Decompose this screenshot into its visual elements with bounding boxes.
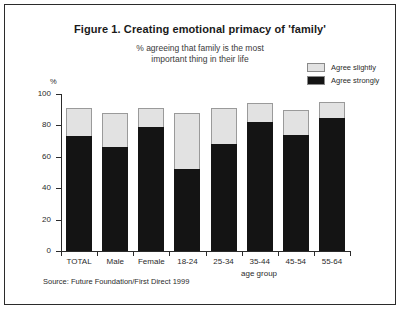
- bar-segment-agree-strongly: [283, 135, 309, 251]
- y-axis-tick-label: 20: [21, 215, 51, 224]
- y-axis-tick: [56, 220, 61, 221]
- x-axis-label-55-64: 55-64: [306, 257, 358, 266]
- chart-title: Figure 1. Creating emotional primacy of …: [5, 23, 395, 35]
- y-axis-tick: [56, 157, 61, 158]
- bar-25-34: [211, 108, 237, 251]
- x-axis-tick: [314, 252, 315, 256]
- bar-segment-agree-strongly: [138, 127, 164, 251]
- bar-total: [66, 108, 92, 251]
- x-axis-tick: [133, 252, 134, 256]
- bar-55-64: [319, 102, 345, 251]
- bar-male: [102, 113, 128, 251]
- bar-segment-agree-strongly: [319, 118, 345, 251]
- y-axis-tick-label: 80: [21, 120, 51, 129]
- legend-swatch-icon: [307, 63, 325, 72]
- figure-frame: Figure 1. Creating emotional primacy of …: [4, 4, 396, 305]
- y-axis-tick: [56, 94, 61, 95]
- bar-segment-agree-strongly: [66, 136, 92, 251]
- y-axis-tick: [56, 125, 61, 126]
- bar-segment-agree-strongly: [174, 169, 200, 251]
- x-axis-tick: [278, 252, 279, 256]
- bar-35-44: [247, 103, 273, 251]
- bar-segment-agree-strongly: [211, 144, 237, 251]
- plot-area: [61, 94, 350, 251]
- x-axis-tick: [61, 252, 62, 256]
- y-axis-tick-label: 100: [21, 89, 51, 98]
- y-axis-tick-label: 0: [21, 246, 51, 255]
- bar-female: [138, 108, 164, 251]
- legend-swatch-icon: [307, 76, 325, 85]
- x-axis-tick: [97, 252, 98, 256]
- bar-45-54: [283, 110, 309, 251]
- chart-legend: Agree slightlyAgree strongly: [307, 62, 397, 88]
- legend-item: Agree slightly: [307, 62, 397, 73]
- x-axis-title: age group: [241, 269, 277, 278]
- y-axis-tick-label: 60: [21, 152, 51, 161]
- source-note: Source: Future Foundation/First Direct 1…: [43, 277, 189, 286]
- x-axis-tick: [206, 252, 207, 256]
- bar-segment-agree-strongly: [102, 147, 128, 251]
- legend-label: Agree strongly: [331, 76, 379, 85]
- bar-segment-agree-strongly: [247, 122, 273, 251]
- legend-item: Agree strongly: [307, 75, 397, 86]
- chart-subtitle-line-1: % agreeing that family is the most: [5, 43, 395, 54]
- x-axis-tick: [242, 252, 243, 256]
- y-axis-tick-label: 40: [21, 183, 51, 192]
- bar-18-24: [174, 113, 200, 251]
- legend-label: Agree slightly: [331, 63, 376, 72]
- y-axis-tick: [56, 188, 61, 189]
- y-axis-unit-label: %: [50, 77, 57, 86]
- x-axis-tick: [169, 252, 170, 256]
- x-axis-tick: [350, 252, 351, 256]
